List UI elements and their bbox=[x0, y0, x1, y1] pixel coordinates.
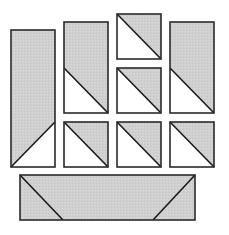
quilt-piece-wide-rect-bottom bbox=[20, 175, 195, 220]
quilt-piece-rect-col4 bbox=[170, 22, 214, 113]
quilt-piece-square-row3-col3 bbox=[117, 122, 161, 167]
quilt-piece-square-row3-col2 bbox=[64, 122, 108, 167]
shaded-region bbox=[20, 175, 195, 220]
quilt-piece-square-row3-col4 bbox=[170, 122, 214, 167]
quilt-piece-square-col3-top bbox=[117, 14, 161, 59]
quilt-piece-tall-rect-left bbox=[11, 30, 55, 167]
quilt-pieces-diagram bbox=[0, 0, 229, 235]
quilt-piece-square-col3-mid bbox=[117, 68, 161, 113]
quilt-piece-rect-col2 bbox=[64, 22, 108, 113]
